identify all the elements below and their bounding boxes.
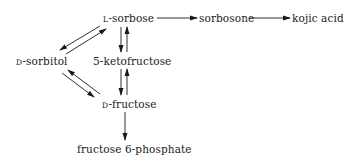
node-d-sorbitol: D-sorbitol [16, 55, 68, 69]
node-label: -sorbitol [22, 55, 67, 67]
arrow-fructose-to-sorbitol [68, 70, 100, 94]
node-label: 5-ketofructose [93, 55, 171, 67]
node-5-ketofructose: 5-ketofructose [93, 55, 171, 67]
arrow-sorbitol-to-fructose [62, 73, 94, 97]
node-label: -fructose [108, 98, 156, 110]
node-kojic-acid: kojic acid [292, 12, 344, 24]
node-label: kojic acid [292, 12, 344, 24]
node-d-fructose: D-fructose [102, 98, 157, 112]
node-label: fructose 6-phosphate [77, 143, 192, 155]
pathway-arrows [0, 0, 347, 166]
node-fructose-6-phosphate: fructose 6-phosphate [77, 143, 192, 155]
node-label: sorbosone [199, 12, 254, 24]
arrow-sorbose-to-sorbitol [60, 26, 100, 50]
node-l-sorbose: L-sorbose [103, 12, 154, 26]
arrow-sorbitol-to-sorbose [66, 29, 106, 54]
node-label: -sorbose [108, 12, 154, 24]
node-sorbosone: sorbosone [199, 12, 254, 24]
